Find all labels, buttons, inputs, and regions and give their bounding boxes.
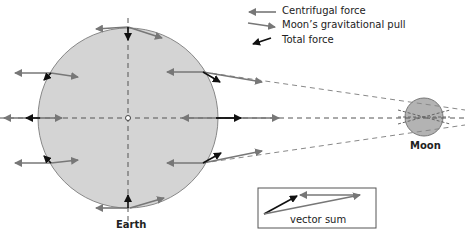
legend-centrifugal-label: Centrifugal force: [282, 5, 366, 16]
earth-label: Earth: [116, 219, 146, 230]
legend-total-label: Total force: [282, 34, 334, 45]
vector-sum-label: vector sum: [290, 214, 346, 225]
moon-label: Moon: [410, 140, 441, 151]
tidal-force-diagram: [0, 0, 471, 235]
legend-gravitational-label: Moon’s gravitational pull: [282, 19, 406, 30]
earth-center-dot: [126, 116, 131, 121]
legend-icons: [248, 12, 276, 44]
